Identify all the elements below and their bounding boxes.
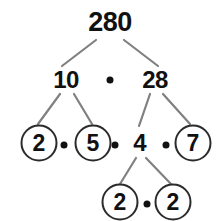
multiplication-dot-icon xyxy=(163,142,170,149)
factor-node-10: 10 xyxy=(53,68,79,92)
prime-factor-node-5: 5 xyxy=(75,125,112,162)
tree-edge xyxy=(146,158,171,184)
prime-factor-node-2: 2 xyxy=(155,184,192,221)
prime-factor-node-2: 2 xyxy=(102,184,139,221)
multiplication-dot-icon xyxy=(112,142,119,149)
tree-edge xyxy=(163,94,190,124)
tree-edge xyxy=(124,40,158,66)
prime-factor-node-2: 2 xyxy=(21,125,58,162)
tree-edge xyxy=(62,40,96,66)
tree-edge xyxy=(74,94,92,124)
tree-edge xyxy=(139,94,150,126)
factor-node-28: 28 xyxy=(142,68,168,92)
multiplication-dot-icon xyxy=(107,77,114,84)
multiplication-dot-icon xyxy=(61,142,68,149)
tree-edge xyxy=(38,94,60,124)
factor-tree-diagram: 2801028254722 xyxy=(0,0,216,221)
factor-node-4: 4 xyxy=(133,131,146,155)
factor-node-280: 280 xyxy=(88,9,132,36)
prime-factor-node-7: 7 xyxy=(175,125,212,162)
tree-edge xyxy=(120,158,136,184)
multiplication-dot-icon xyxy=(144,201,151,208)
